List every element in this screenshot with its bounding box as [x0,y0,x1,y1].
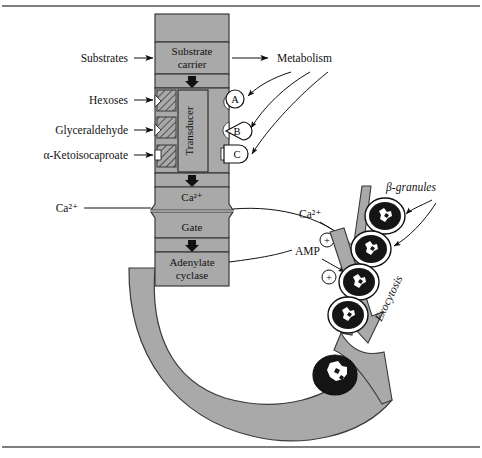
site-a-label: A [231,94,239,105]
granule-4 [328,297,368,333]
label-hexoses: Hexoses [89,94,128,106]
amp-leader [229,250,292,262]
site-b-marker: B [226,122,252,140]
channel-block-2 [157,117,176,138]
label-glyceraldehyde: Glyceraldehyde [55,124,128,137]
gate-label: Gate [182,221,203,233]
site-b-label: B [233,126,240,137]
adenylate-cyclase-label-line1: Adenylate [169,256,214,268]
adenylate-cyclase-label-line2: cyclase [176,269,208,281]
substrate-carrier-label-line1: Substrate [172,45,213,57]
figure-canvas: Substrate carrier Transducer Ca²⁺ Gate A… [0,0,482,458]
substrate-carrier-label-line2: carrier [178,58,207,70]
svg-text:+: + [324,235,330,246]
granule-2 [351,231,391,267]
label-amp: AMP [295,245,320,257]
channel-c-mouth [155,150,161,160]
metabolism-arrow-to-a [248,72,291,96]
beta-granules-pointer-1 [406,200,432,214]
site-c-label: C [233,149,240,160]
column-top-segment [155,14,229,42]
pathway-diagram-svg: Substrate carrier Transducer Ca²⁺ Gate A… [0,0,482,458]
svg-text:+: + [326,272,332,283]
granule-fusing [313,355,357,395]
plus-sign-amp: + [322,270,336,284]
label-calcium-left: Ca²⁺ [56,202,78,214]
label-beta-granules: β-granules [385,181,436,194]
site-c-marker: C [224,145,248,163]
granule-1 [365,198,405,234]
label-calcium-right: Ca²⁺ [299,208,321,220]
transducer-label: Transducer [183,106,195,155]
label-ketoisocaproate: α-Ketoisocaproate [43,149,128,162]
label-substrates: Substrates [81,52,129,64]
calcium-box-label: Ca²⁺ [181,191,203,203]
site-a-marker: A [226,90,244,108]
metabolism-arrow-to-b [251,72,310,128]
granule-3 [339,264,379,300]
label-metabolism: Metabolism [277,52,332,64]
